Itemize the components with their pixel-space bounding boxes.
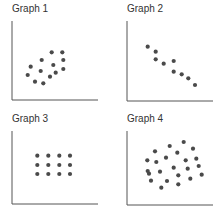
data-point — [40, 58, 44, 62]
graph-2-plot — [127, 21, 213, 101]
data-point — [182, 140, 186, 144]
data-point — [200, 173, 204, 177]
data-point — [175, 151, 179, 155]
data-point — [154, 50, 158, 54]
data-point — [159, 186, 163, 190]
data-point — [147, 172, 151, 176]
data-point — [29, 65, 33, 69]
data-point — [46, 163, 50, 167]
graph-3-plot — [12, 131, 98, 204]
data-point — [68, 154, 72, 158]
data-point — [168, 144, 172, 148]
data-point — [68, 163, 72, 167]
data-point — [172, 59, 176, 63]
data-point — [172, 166, 176, 170]
data-point — [39, 69, 43, 73]
data-point — [176, 182, 180, 186]
data-point — [35, 154, 39, 158]
data-point — [149, 179, 153, 183]
data-point — [41, 81, 45, 85]
data-point — [61, 67, 65, 71]
data-point — [60, 50, 64, 54]
data-point — [46, 154, 50, 158]
data-point — [197, 164, 201, 168]
data-point — [146, 45, 150, 49]
data-point — [188, 177, 192, 181]
data-point — [61, 58, 65, 62]
data-point — [162, 62, 166, 66]
data-point — [180, 72, 184, 76]
data-point — [193, 83, 197, 87]
data-point — [48, 75, 52, 79]
data-point — [57, 163, 61, 167]
data-point — [158, 170, 162, 174]
data-point — [26, 73, 30, 77]
data-point — [35, 172, 39, 176]
graph-1-plot — [12, 21, 98, 100]
data-point — [176, 173, 180, 177]
data-point — [194, 157, 198, 161]
data-point — [50, 50, 54, 54]
data-point — [33, 80, 37, 84]
data-point — [184, 158, 188, 162]
data-point — [172, 70, 176, 74]
data-point — [164, 156, 168, 160]
data-point — [57, 154, 61, 158]
graph-4-plot — [127, 131, 213, 205]
data-point — [57, 172, 61, 176]
data-point — [54, 71, 58, 75]
data-point — [186, 167, 190, 171]
data-point — [191, 147, 195, 151]
data-point — [154, 57, 158, 61]
data-point — [154, 160, 158, 164]
data-point — [51, 63, 55, 67]
data-point — [68, 172, 72, 176]
data-point — [186, 76, 190, 80]
data-point — [46, 172, 50, 176]
data-point — [35, 163, 39, 167]
data-point — [153, 149, 157, 153]
scatter-plots-canvas — [0, 0, 222, 213]
data-point — [165, 179, 169, 183]
data-point — [145, 158, 149, 162]
